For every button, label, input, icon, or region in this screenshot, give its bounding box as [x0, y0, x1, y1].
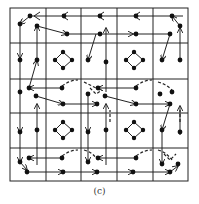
grid-flow-diagram: [0, 0, 199, 204]
diamond-cycles: [55, 52, 143, 138]
figure-caption: (c): [0, 186, 199, 196]
nodes: [18, 14, 183, 175]
